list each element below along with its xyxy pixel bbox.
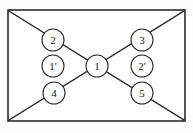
rectangle-diagonal-diagram: 2 3 1' 1 2' 4 5 [0, 0, 193, 133]
node-3-label: 3 [139, 34, 145, 46]
node-2-group[interactable]: 2 [42, 29, 64, 51]
node-1-prime-group[interactable]: 1' [42, 55, 64, 77]
node-1-prime-label: 1' [49, 60, 57, 72]
node-2-prime-group[interactable]: 2' [131, 55, 153, 77]
node-4-group[interactable]: 4 [43, 82, 65, 104]
node-5-group[interactable]: 5 [131, 82, 153, 104]
node-3-group[interactable]: 3 [131, 29, 153, 51]
node-1-center-group[interactable]: 1 [86, 55, 108, 77]
diagram-canvas: 2 3 1' 1 2' 4 5 [0, 0, 193, 133]
node-1-center-label: 1 [94, 60, 100, 72]
node-2-prime-label: 2' [138, 60, 146, 72]
node-4-label: 4 [51, 87, 57, 99]
node-5-label: 5 [139, 87, 145, 99]
node-2-label: 2 [50, 34, 56, 46]
